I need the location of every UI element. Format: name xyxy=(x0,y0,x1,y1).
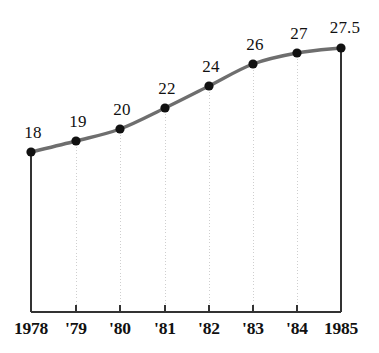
axis-ticks xyxy=(76,305,297,312)
data-point-81 xyxy=(160,103,169,112)
data-point-84 xyxy=(292,48,301,57)
series-line xyxy=(31,48,341,152)
axis-lines xyxy=(31,48,341,312)
data-point-1978 xyxy=(26,147,35,156)
data-point-markers xyxy=(26,43,345,156)
data-point-80 xyxy=(115,124,124,133)
chart-canvas xyxy=(0,0,379,353)
data-point-83 xyxy=(248,59,257,68)
line-chart: 1819202224262727.5 1978'79'80'81'82'83'8… xyxy=(0,0,379,353)
data-point-1985 xyxy=(336,43,345,52)
data-point-82 xyxy=(204,81,213,90)
data-point-79 xyxy=(71,136,80,145)
